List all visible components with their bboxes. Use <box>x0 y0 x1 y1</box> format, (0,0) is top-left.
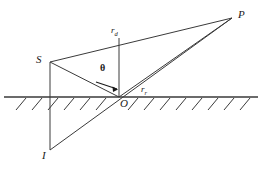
direct-path-line-sp <box>50 18 232 62</box>
ground-hatching-right <box>128 98 250 110</box>
ray-diagram-figure: S I P O rd rr θ <box>0 0 262 171</box>
label-direct-ray-rd: rd <box>111 26 118 37</box>
diagram-canvas <box>0 0 262 171</box>
ground-hatching-left <box>16 98 106 110</box>
label-origin-o: O <box>120 98 128 109</box>
incident-ray-so <box>50 62 119 97</box>
label-angle-theta: θ <box>100 63 105 73</box>
label-reflected-ray-rr: rr <box>141 85 147 96</box>
label-direct-ray-subscript: d <box>115 30 118 37</box>
label-reflected-ray-subscript: r <box>145 89 148 96</box>
label-receiver-p: P <box>238 9 245 20</box>
label-image-i: I <box>42 150 46 161</box>
label-source-s: S <box>36 54 42 65</box>
